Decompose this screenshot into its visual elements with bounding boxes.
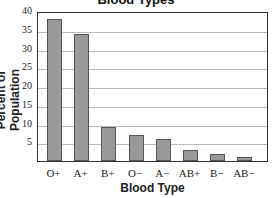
y-tick-label: 40: [14, 5, 32, 16]
bar: [47, 19, 62, 162]
gridline: [38, 32, 267, 33]
chart-title: Blood Types: [0, 0, 272, 7]
gridline: [38, 69, 267, 70]
x-tick-label: O−: [120, 167, 150, 179]
gridline: [38, 126, 267, 127]
bar: [74, 34, 89, 162]
x-axis-label: Blood Type: [37, 181, 268, 195]
x-tick-label: A+: [66, 167, 96, 179]
plot-area: [37, 12, 268, 162]
x-tick-label: O+: [39, 167, 69, 179]
x-tick-label: B+: [93, 167, 123, 179]
y-tick-label: 35: [14, 24, 32, 35]
y-tick-label: 20: [14, 80, 32, 91]
gridline: [38, 51, 267, 52]
y-tick-label: 25: [14, 61, 32, 72]
x-tick-label: A−: [147, 167, 177, 179]
y-tick-label: 10: [14, 118, 32, 129]
x-tick-label: AB+: [175, 167, 205, 179]
bar: [210, 154, 225, 162]
y-tick-label: 30: [14, 43, 32, 54]
y-tick-label: 15: [14, 99, 32, 110]
bar: [156, 139, 171, 162]
bar: [101, 127, 116, 161]
gridline: [38, 107, 267, 108]
bar: [183, 150, 198, 161]
x-tick-label: AB−: [229, 167, 259, 179]
gridline: [38, 144, 267, 145]
bar: [237, 157, 252, 161]
y-tick-label: 5: [14, 136, 32, 147]
bar: [129, 135, 144, 161]
gridline: [38, 88, 267, 89]
x-tick-label: B−: [202, 167, 232, 179]
